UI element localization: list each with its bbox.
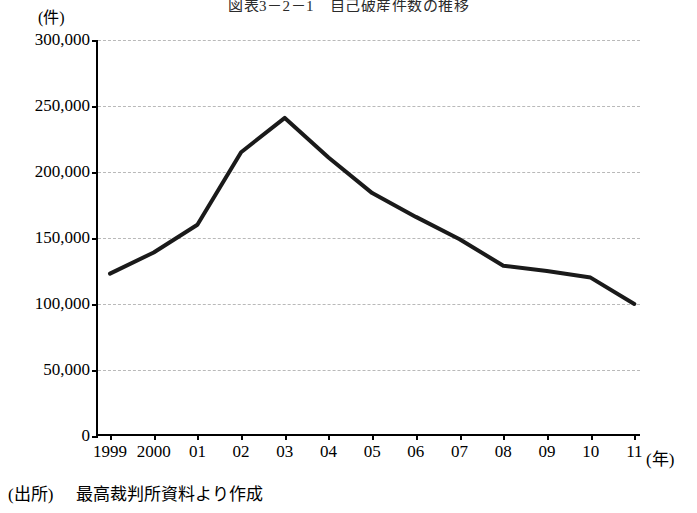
x-axis-tick-label: 07 — [451, 442, 468, 462]
chart-container: 図表3－2－1 自己破産件数の推移 (件) 050,000100,000150,… — [0, 0, 697, 513]
x-axis-tick-label: 03 — [276, 442, 293, 462]
x-axis-tick-label: 01 — [189, 442, 206, 462]
x-axis-tick-label: 04 — [320, 442, 337, 462]
x-axis-tick-label: 08 — [495, 442, 512, 462]
x-axis-tick-label: 02 — [233, 442, 250, 462]
y-axis-unit-label: (件) — [38, 4, 65, 28]
source-label: (出所) — [8, 480, 53, 505]
y-axis-tick-mark — [92, 436, 98, 438]
x-axis-tick-label: 06 — [407, 442, 424, 462]
x-axis-tick-label: 2000 — [137, 442, 171, 462]
y-axis-tick-label: 50,000 — [43, 360, 98, 380]
x-axis-unit-label: (年) — [646, 445, 674, 470]
chart-title: 図表3－2－1 自己破産件数の推移 — [0, 0, 697, 12]
source-note: (出所) 最高裁判所資料より作成 — [8, 480, 263, 505]
y-axis-tick-label: 100,000 — [35, 294, 98, 314]
x-axis-tick-label: 05 — [364, 442, 381, 462]
x-axis-tick-label: 1999 — [93, 442, 127, 462]
y-axis-tick-label: 250,000 — [35, 96, 98, 116]
source-text: 最高裁判所資料より作成 — [76, 480, 263, 505]
y-axis-tick-label: 150,000 — [35, 228, 98, 248]
y-axis-tick-label: 300,000 — [35, 30, 98, 50]
plot-area: 050,000100,000150,000200,000250,000300,0… — [96, 40, 640, 436]
x-axis-tick-label: 11 — [626, 442, 642, 462]
x-axis-tick-label: 10 — [582, 442, 599, 462]
x-axis-tick-label: 09 — [538, 442, 555, 462]
y-axis-tick-label: 200,000 — [35, 162, 98, 182]
line-series — [98, 40, 642, 436]
